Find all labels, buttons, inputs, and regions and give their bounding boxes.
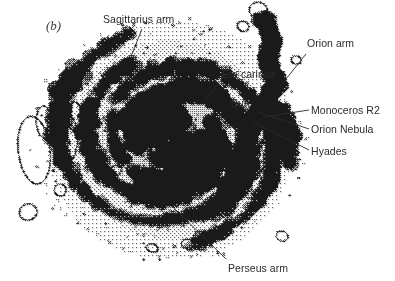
label-monoceros-r2: Monoceros R2 (311, 105, 380, 116)
figure-root: (b) Sagittarius armEta carinaeSunOrion a… (0, 0, 395, 281)
label-sagittarius-arm: Sagittarius arm (103, 14, 174, 25)
label-hyades: Hyades (311, 146, 347, 157)
label-perseus-arm: Perseus arm (228, 263, 288, 274)
label-orion-arm: Orion arm (307, 38, 354, 49)
panel-letter: (b) (46, 18, 61, 34)
label-sun: Sun (231, 98, 250, 109)
label-orion-nebula: Orion Nebula (311, 124, 373, 135)
label-eta-carinae: Eta carinae (222, 69, 276, 80)
